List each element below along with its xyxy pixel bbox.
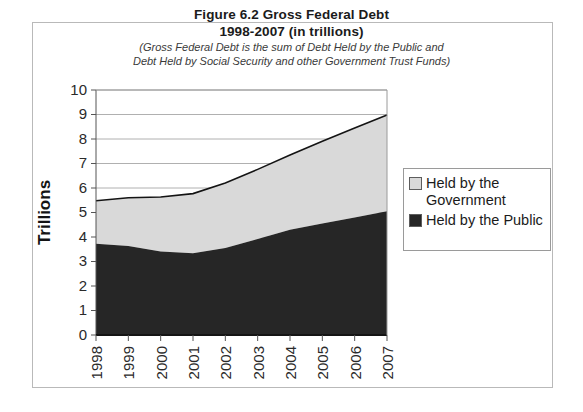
- x-axis-tick-label: 2006: [347, 346, 364, 379]
- legend-swatch-government: [409, 177, 422, 190]
- stacked-area-series: [96, 115, 387, 335]
- x-axis-tick-label: 1999: [120, 346, 137, 379]
- legend-label-public: Held by the Public: [426, 212, 543, 229]
- x-axis-tick-label: 1998: [88, 346, 105, 379]
- y-axis-tick-label: 9: [79, 105, 87, 122]
- x-axis-tick-label: 2005: [314, 346, 331, 379]
- x-axis-tick-label: 2003: [250, 346, 267, 379]
- y-axis-title: Trillions: [35, 180, 54, 245]
- y-axis-tick-labels: 012345678910: [70, 81, 96, 343]
- y-axis-tick-label: 2: [79, 277, 87, 294]
- x-axis-tick-label: 2007: [379, 346, 396, 379]
- y-axis-tick-label: 1: [79, 301, 87, 318]
- legend-label-government: Held by the Government: [426, 175, 546, 209]
- x-axis-tick-label: 2000: [153, 346, 170, 379]
- x-axis-tick-label: 2002: [217, 346, 234, 379]
- chart-legend: Held by the Government Held by the Publi…: [403, 168, 551, 251]
- legend-item-held-by-the-public[interactable]: Held by the Public: [409, 212, 546, 229]
- legend-item-held-by-the-government[interactable]: Held by the Government: [409, 175, 546, 209]
- y-axis-tick-label: 4: [79, 228, 87, 245]
- x-axis-tick-labels: 1998199920002001200220032004200520062007: [88, 335, 396, 379]
- x-axis-tick-label: 2004: [282, 346, 299, 379]
- y-axis-tick-label: 7: [79, 154, 87, 171]
- y-axis-tick-label: 3: [79, 252, 87, 269]
- y-axis-tick-label: 10: [70, 81, 87, 98]
- y-axis-tick-label: 6: [79, 179, 87, 196]
- y-axis-title-text: Trillions: [35, 180, 54, 245]
- y-axis-tick-label: 0: [79, 326, 87, 343]
- y-axis-tick-label: 8: [79, 130, 87, 147]
- y-axis-tick-label: 5: [79, 203, 87, 220]
- x-axis-tick-label: 2001: [185, 346, 202, 379]
- legend-swatch-public: [409, 214, 422, 227]
